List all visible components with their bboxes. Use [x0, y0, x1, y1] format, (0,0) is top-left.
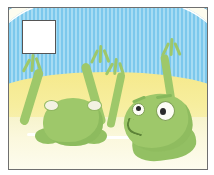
- frog-right-pupil-left: [136, 106, 141, 111]
- illustration-frame: [8, 7, 208, 170]
- frog-left-hand-left: [25, 54, 41, 68]
- frog-right-hand-right: [164, 38, 180, 52]
- frog-right: [104, 36, 208, 161]
- placeholder-box[interactable]: [22, 20, 56, 54]
- page-root: [0, 0, 214, 175]
- frog-left-arm-left: [19, 68, 45, 126]
- frog-left-eye-right: [87, 100, 102, 111]
- frog-right-pupil-right: [160, 108, 166, 115]
- frog-left-eye-left: [44, 100, 59, 111]
- frog-right-hand-left: [108, 58, 124, 72]
